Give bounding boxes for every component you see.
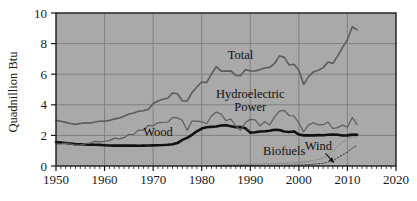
x-tick-label: 1990 — [237, 172, 263, 187]
y-axis-title: Quadnillion Btu — [6, 51, 20, 133]
chart-svg: 19501960197019801990200020102020 0246810… — [0, 0, 417, 201]
x-tick-label: 2000 — [286, 172, 312, 187]
x-tick-label: 2020 — [383, 172, 409, 187]
y-tick-label: 8 — [41, 36, 48, 51]
y-tick-label: 4 — [41, 97, 48, 112]
chart-figure: 19501960197019801990200020102020 0246810… — [0, 0, 417, 201]
y-tick-label: 6 — [41, 67, 48, 82]
x-tick-label: 1950 — [43, 172, 69, 187]
x-tick-label: 1960 — [92, 172, 118, 187]
series-label-total: Total — [228, 48, 254, 62]
series-label-hydroelectric-power-line2: Power — [234, 100, 267, 114]
series-label-hydroelectric-power: Hydroelectric — [216, 87, 285, 101]
y-tick-label: 2 — [41, 128, 48, 143]
x-tick-label: 1980 — [189, 172, 215, 187]
series-label-wood: Wood — [143, 125, 173, 139]
x-tick-label: 2010 — [334, 172, 360, 187]
series-label-wind: Wind — [305, 139, 333, 153]
y-tick-label: 0 — [41, 159, 48, 174]
series-label-biofuels: Biofuels — [263, 144, 305, 158]
y-tick-label: 10 — [34, 6, 47, 21]
x-tick-label: 1970 — [140, 172, 166, 187]
